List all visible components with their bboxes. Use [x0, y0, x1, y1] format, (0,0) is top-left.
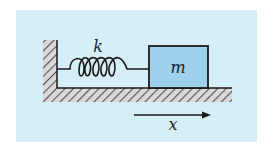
- spring-constant-label: k: [93, 37, 103, 56]
- spring: [57, 58, 149, 76]
- mass-spring-diagram: k m x: [0, 0, 276, 149]
- displacement-label: x: [168, 115, 177, 134]
- wall: [43, 40, 57, 88]
- floor: [43, 88, 232, 102]
- mass-label: m: [170, 58, 185, 77]
